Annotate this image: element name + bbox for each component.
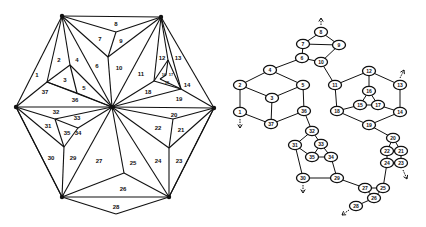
graph-node-17: 17 xyxy=(372,100,385,109)
region-label: 30 xyxy=(48,155,55,161)
vertex-hub xyxy=(14,105,18,109)
region-label: 31 xyxy=(45,123,52,129)
vertex-hub xyxy=(167,195,171,199)
graph-node-15: 15 xyxy=(354,100,367,109)
node-label: 25 xyxy=(380,185,386,191)
triangle-edge xyxy=(62,147,64,197)
graph-node-18: 18 xyxy=(331,106,344,115)
graph-node-6: 6 xyxy=(296,53,309,62)
graph-node-4: 4 xyxy=(264,65,277,74)
graph-node-8: 8 xyxy=(315,27,328,36)
graph-node-3: 3 xyxy=(266,93,279,102)
vertex-hub xyxy=(60,195,64,199)
region-label: 9 xyxy=(119,38,123,44)
region-label: 19 xyxy=(176,96,183,102)
region-label: 20 xyxy=(171,112,178,118)
triangle-edge xyxy=(124,173,169,197)
triangle-edge xyxy=(169,108,214,197)
node-label: 9 xyxy=(338,42,341,48)
node-label: 37 xyxy=(268,121,274,127)
region-label: 6 xyxy=(95,63,99,69)
node-label: 22 xyxy=(384,148,390,154)
node-label: 21 xyxy=(398,148,404,154)
region-label: 8 xyxy=(114,21,118,27)
node-label: 23 xyxy=(398,160,404,166)
vertex-hub xyxy=(159,15,163,19)
graph-node-24: 24 xyxy=(381,158,394,167)
graph-node-36: 36 xyxy=(298,106,311,115)
region-label: 34 xyxy=(75,130,82,136)
triangle-edge xyxy=(47,82,112,107)
diagram-canvas: 1234567891011121314151617181920212223242… xyxy=(0,0,426,227)
region-label: 23 xyxy=(176,158,183,164)
node-label: 27 xyxy=(362,185,368,191)
node-label: 30 xyxy=(300,175,306,181)
node-label: 13 xyxy=(397,82,403,88)
node-label: 6 xyxy=(301,55,304,61)
region-label: 35 xyxy=(64,130,71,136)
node-label: 17 xyxy=(375,102,381,108)
graph-node-19: 19 xyxy=(363,120,376,129)
node-label: 34 xyxy=(328,154,334,160)
triangle-edge xyxy=(62,16,161,17)
node-label: 33 xyxy=(318,141,324,147)
region-label: 14 xyxy=(184,82,191,88)
vertex-hub xyxy=(110,105,114,109)
graph-node-11: 11 xyxy=(329,80,342,89)
triangle-edge xyxy=(161,17,181,89)
triangle-edge xyxy=(62,173,124,197)
graph-node-23: 23 xyxy=(395,158,408,167)
node-label: 20 xyxy=(390,135,396,141)
region-label: 10 xyxy=(116,65,123,71)
region-label: 4 xyxy=(75,57,79,63)
region-label: 1 xyxy=(35,72,39,78)
graph-node-33: 33 xyxy=(315,139,328,148)
graph-node-2: 2 xyxy=(234,80,247,89)
node-label: 11 xyxy=(332,82,338,88)
node-label: 32 xyxy=(309,128,315,134)
region-label: 7 xyxy=(98,36,102,42)
triangle-edge xyxy=(62,107,112,197)
node-label: 18 xyxy=(334,108,340,114)
graph-node-16: 16 xyxy=(363,86,376,95)
node-label: 7 xyxy=(302,41,305,47)
graph-node-14: 14 xyxy=(394,107,407,116)
region-label: 13 xyxy=(175,55,182,61)
triangle-edge xyxy=(62,197,116,214)
region-label: 33 xyxy=(74,115,81,121)
graph-node-32: 32 xyxy=(306,126,319,135)
region-label: 25 xyxy=(130,160,137,166)
triangle-edge xyxy=(16,107,55,119)
region-label: 3 xyxy=(63,77,67,83)
graph-node-9: 9 xyxy=(333,40,346,49)
graph-node-25: 25 xyxy=(377,183,390,192)
region-label: 18 xyxy=(145,89,152,95)
node-label: 26 xyxy=(371,195,377,201)
triangle-edge xyxy=(16,16,62,107)
region-label: 15 xyxy=(165,80,170,85)
graph-node-30: 30 xyxy=(297,173,310,182)
node-label: 29 xyxy=(334,175,340,181)
node-label: 28 xyxy=(353,203,359,209)
node-label: 15 xyxy=(357,102,363,108)
triangle-edge xyxy=(55,107,112,119)
region-label: 12 xyxy=(159,55,166,61)
node-label: 2 xyxy=(239,82,242,88)
region-label: 36 xyxy=(72,97,79,103)
node-label: 5 xyxy=(302,82,305,88)
region-label: 16 xyxy=(162,72,167,77)
triangle-edge xyxy=(112,107,214,108)
graph-node-34: 34 xyxy=(325,152,338,161)
region-label: 22 xyxy=(155,125,162,131)
triangle-edge xyxy=(108,32,116,57)
node-label: 1 xyxy=(239,109,242,115)
region-label: 29 xyxy=(70,155,77,161)
node-label: 36 xyxy=(301,108,307,114)
region-label: 11 xyxy=(138,71,145,77)
vertex-hub xyxy=(212,106,216,110)
node-label: 16 xyxy=(366,88,372,94)
region-label: 2 xyxy=(57,57,61,63)
region-label: 24 xyxy=(155,158,162,164)
graph-node-28: 28 xyxy=(350,201,363,210)
graph-node-1: 1 xyxy=(234,107,247,116)
